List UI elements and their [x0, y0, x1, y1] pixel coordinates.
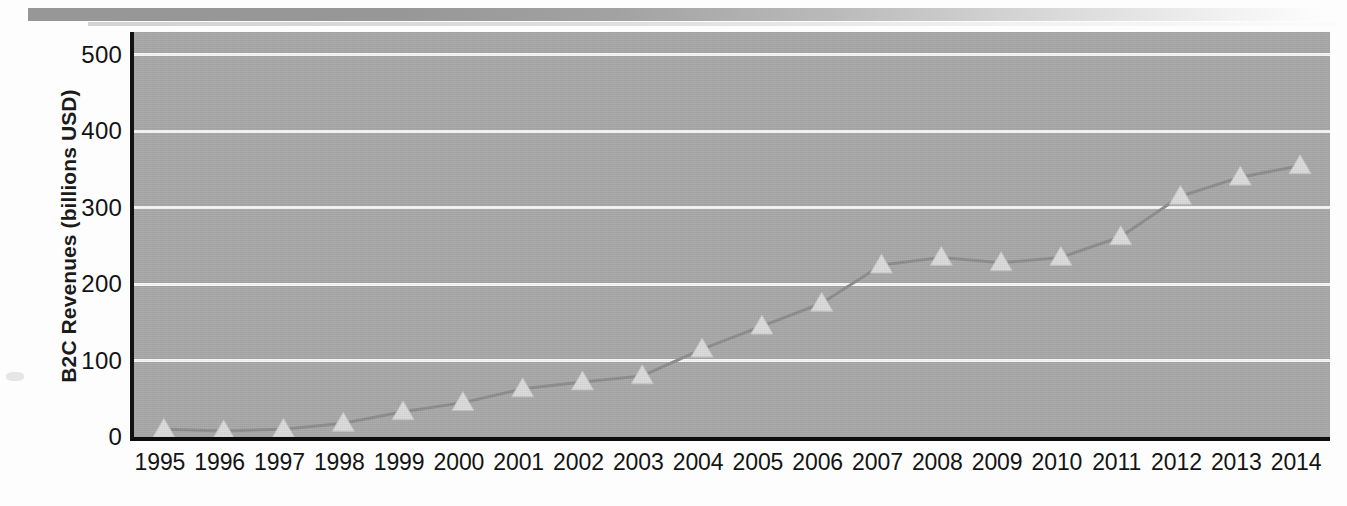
series-line-path [164, 166, 1300, 431]
data-point-marker [213, 420, 235, 437]
y-tick-label: 300 [46, 194, 122, 222]
plot-inner [134, 32, 1330, 437]
data-point-marker [1289, 155, 1311, 174]
y-tick-label: 100 [46, 347, 122, 375]
y-tick-label: 0 [46, 423, 122, 451]
y-tick-label: 400 [46, 117, 122, 145]
y-tick-label: 500 [46, 41, 122, 69]
scan-artifact-strip-secondary [88, 22, 1338, 26]
x-tick-label: 2014 [1256, 449, 1336, 476]
x-axis-tick-labels: 1995199619971998199920002001200220032004… [130, 449, 1326, 489]
data-point-marker [811, 292, 833, 311]
y-axis-tick-labels: 0100200300400500 [46, 0, 122, 506]
data-series-line [134, 32, 1330, 437]
y-tick-label: 200 [46, 270, 122, 298]
data-point-marker [930, 246, 952, 265]
scan-artifact-smudge [6, 372, 24, 381]
plot-area [130, 32, 1330, 441]
data-point-marker [153, 418, 175, 437]
data-point-marker [1110, 226, 1132, 245]
scan-artifact-strip [28, 8, 1328, 21]
data-point-marker [631, 365, 653, 384]
chart-figure: B2C Revenues (billions USD) 010020030040… [0, 0, 1347, 506]
